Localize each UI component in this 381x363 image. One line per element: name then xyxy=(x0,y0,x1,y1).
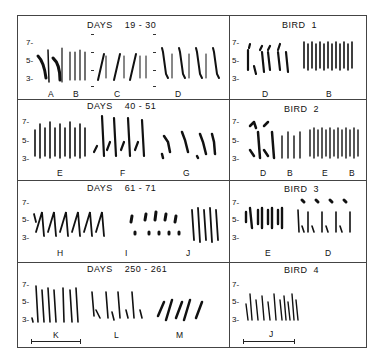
panel-title-bird-2: BIRD 2 xyxy=(284,104,319,114)
syllable-label-a: A xyxy=(48,89,54,99)
syllable-label-d: D xyxy=(262,89,268,99)
time-scale-bar xyxy=(243,341,295,342)
panel-title-days-40-51: DAYS 40 - 51 xyxy=(87,101,156,111)
row-divider xyxy=(17,262,367,263)
y-tick-5: 5- xyxy=(232,136,239,145)
sonogram-bird-4 xyxy=(244,290,304,326)
panel-title-bird-4: BIRD 4 xyxy=(284,265,319,275)
sonogram-days-250-261 xyxy=(30,282,220,327)
y-tick-5: 5- xyxy=(22,215,29,224)
column-divider xyxy=(229,15,230,348)
syllable-label-j: J xyxy=(186,248,190,258)
syllable-label-m: M xyxy=(176,330,183,340)
y-tick-5: 5- xyxy=(232,56,239,65)
syllable-label-h: H xyxy=(57,248,63,258)
sonogram-days-61-71 xyxy=(32,202,222,247)
y-tick-7: 7- xyxy=(22,280,29,289)
y-tick-5: 5- xyxy=(232,215,239,224)
syllable-label-e: E xyxy=(265,248,271,258)
y-tick-5: 5- xyxy=(232,297,239,306)
panel-title-bird-1: BIRD 1 xyxy=(282,20,317,30)
sonogram-days-19-30 xyxy=(34,30,224,86)
panel-title-days-250-261: DAYS 250 - 261 xyxy=(87,264,167,274)
y-tick-5: 5- xyxy=(26,56,33,65)
syllable-label-b: B xyxy=(349,168,355,178)
panel-title-bird-3: BIRD 3 xyxy=(284,184,319,194)
syllable-label-d: D xyxy=(325,248,331,258)
syllable-label-g: G xyxy=(183,168,190,178)
row-divider xyxy=(17,180,367,181)
y-tick-3: 3- xyxy=(232,74,239,83)
y-tick-3: 3- xyxy=(22,154,29,163)
syllable-label-e: E xyxy=(57,168,63,178)
y-tick-3: 3- xyxy=(22,315,29,324)
y-tick-3: 3- xyxy=(232,315,239,324)
syllable-label-k: K xyxy=(53,330,59,340)
y-tick-7: 7- xyxy=(26,38,33,47)
syllable-label-f: F xyxy=(120,168,125,178)
syllable-label-d: D xyxy=(260,168,266,178)
y-tick-7: 7- xyxy=(232,38,239,47)
y-tick-5: 5- xyxy=(22,136,29,145)
y-tick-7: 7- xyxy=(232,117,239,126)
y-tick-5: 5- xyxy=(22,297,29,306)
syllable-label-l: L xyxy=(114,330,119,340)
y-tick-7: 7- xyxy=(232,280,239,289)
y-tick-3: 3- xyxy=(26,74,33,83)
sonogram-bird-3 xyxy=(244,198,364,240)
y-tick-3: 3- xyxy=(232,233,239,242)
y-tick-7: 7- xyxy=(22,198,29,207)
syllable-label-b: B xyxy=(73,89,79,99)
syllable-label-c: C xyxy=(114,89,120,99)
syllable-label-d: D xyxy=(175,89,181,99)
syllable-label-b: B xyxy=(287,168,293,178)
sonogram-days-40-51 xyxy=(32,112,222,168)
y-tick-7: 7- xyxy=(22,117,29,126)
y-tick-7: 7- xyxy=(232,198,239,207)
syllable-label-b: B xyxy=(326,89,332,99)
sonogram-bird-2 xyxy=(248,118,368,166)
time-scale-bar xyxy=(31,341,81,342)
y-tick-3: 3- xyxy=(232,154,239,163)
panel-title-days-19-30: DAYS 19 - 30 xyxy=(87,20,156,30)
sonogram-bird-1 xyxy=(244,40,364,84)
syllable-label-e: E xyxy=(322,168,328,178)
row-divider xyxy=(17,99,367,100)
panel-title-days-61-71: DAYS 61 - 71 xyxy=(87,183,156,193)
syllable-label-j: J xyxy=(269,329,273,339)
syllable-label-i: I xyxy=(125,248,127,258)
y-tick-3: 3- xyxy=(22,233,29,242)
